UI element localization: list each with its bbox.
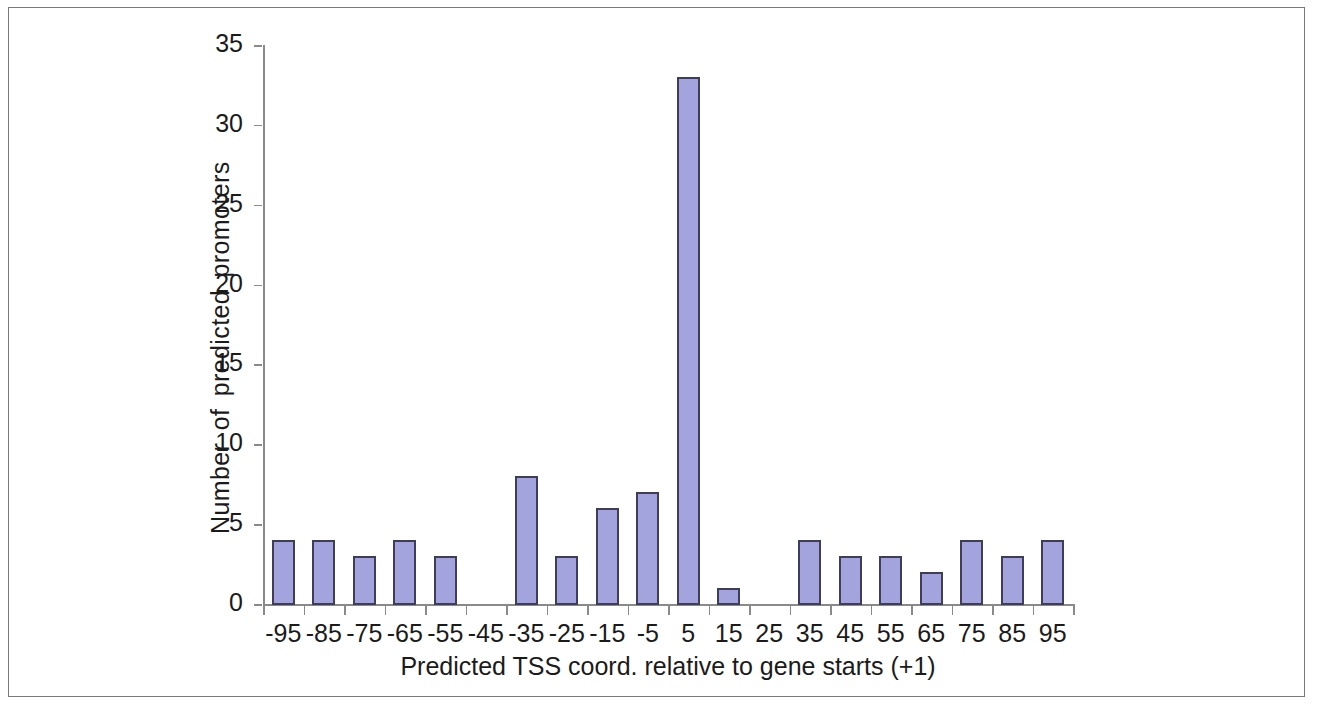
x-axis-tick-label: 85: [992, 619, 1033, 648]
x-axis-tick-label: -45: [466, 619, 507, 648]
bar: [272, 540, 295, 605]
x-axis-tick-label: -85: [304, 619, 345, 648]
y-axis-tick: [254, 604, 262, 606]
x-axis-tick-label: -35: [506, 619, 547, 648]
x-axis-tick: [385, 606, 387, 615]
x-axis-tick: [1033, 606, 1035, 615]
x-axis-tick-label: 45: [830, 619, 871, 648]
x-axis-tick: [790, 606, 792, 615]
figure-frame: 05101520253035 -95-85-75-65-55-45-35-25-…: [8, 7, 1305, 697]
x-axis-tick: [952, 606, 954, 615]
y-axis-tick-label: 30: [9, 109, 243, 138]
y-axis-tick: [254, 205, 262, 207]
x-axis-tick-label: -95: [263, 619, 304, 648]
y-axis-tick: [254, 45, 262, 47]
x-axis-tick-label: -75: [344, 619, 385, 648]
x-axis-tick: [263, 606, 265, 615]
x-axis-tick-label: 95: [1033, 619, 1074, 648]
x-axis-tick: [830, 606, 832, 615]
bar: [434, 556, 457, 605]
bar: [717, 588, 740, 605]
x-axis-tick: [506, 606, 508, 615]
bar: [312, 540, 335, 605]
bar: [555, 556, 578, 605]
x-axis-tick-label: 35: [790, 619, 831, 648]
bar: [677, 77, 700, 606]
x-axis-tick-label: -5: [628, 619, 669, 648]
x-axis-tick: [992, 606, 994, 615]
x-axis-tick: [628, 606, 630, 615]
x-axis-tick: [344, 606, 346, 615]
x-axis-tick: [1073, 606, 1075, 615]
x-axis-tick: [911, 606, 913, 615]
x-axis-tick: [871, 606, 873, 615]
x-axis-tick: [547, 606, 549, 615]
x-axis-title: Predicted TSS coord. relative to gene st…: [263, 652, 1073, 681]
bar: [920, 572, 943, 605]
x-axis-tick-label: 5: [668, 619, 709, 648]
y-axis-tick: [254, 524, 262, 526]
x-axis-tick: [587, 606, 589, 615]
bar: [960, 540, 983, 605]
x-axis-tick-label: 55: [871, 619, 912, 648]
x-axis-tick-label: 65: [911, 619, 952, 648]
y-axis-title: Number of predicted promoters: [206, 161, 235, 534]
bar: [1041, 540, 1064, 605]
bar: [839, 556, 862, 605]
x-axis-tick-label: 25: [749, 619, 790, 648]
bar: [393, 540, 416, 605]
x-axis-tick: [466, 606, 468, 615]
bar: [515, 476, 538, 605]
y-axis-tick: [254, 285, 262, 287]
figure-container: 05101520253035 -95-85-75-65-55-45-35-25-…: [0, 0, 1322, 723]
y-axis-tick-label: 35: [9, 29, 243, 58]
x-axis-tick-label: -55: [425, 619, 466, 648]
bar: [596, 508, 619, 605]
bar: [798, 540, 821, 605]
y-axis-tick-label: 0: [9, 588, 243, 617]
x-axis-tick: [709, 606, 711, 615]
x-axis-tick-label: -65: [385, 619, 426, 648]
bar: [353, 556, 376, 605]
x-axis-tick-label: -15: [587, 619, 628, 648]
bar: [1001, 556, 1024, 605]
y-axis-tick: [254, 444, 262, 446]
bar: [879, 556, 902, 605]
x-axis-tick-label: 15: [709, 619, 750, 648]
x-axis-tick: [668, 606, 670, 615]
bar: [636, 492, 659, 605]
x-axis-tick: [304, 606, 306, 615]
y-axis-tick: [254, 125, 262, 127]
y-axis-tick: [254, 364, 262, 366]
x-axis-tick-label: 75: [952, 619, 993, 648]
x-axis-tick: [425, 606, 427, 615]
x-axis-tick: [749, 606, 751, 615]
y-axis-line: [263, 45, 265, 606]
x-axis-tick-label: -25: [547, 619, 588, 648]
